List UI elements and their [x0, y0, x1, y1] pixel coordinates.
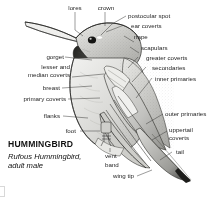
bill — [25, 22, 79, 42]
figure-age-sex: adult male — [8, 161, 104, 170]
figure-title: HUMMINGBIRD — [8, 139, 104, 149]
page-corner-mark — [0, 186, 5, 197]
label-breast: breast — [8, 84, 60, 91]
figure-species: Rufous Hummingbird, — [8, 152, 104, 161]
label-lesser-median-coverts-line1: lesser and — [4, 63, 70, 70]
label-postocular-spot: postocular spot — [128, 12, 170, 19]
label-outer-primaries: outer primaries — [165, 110, 206, 117]
label-tail: tail — [176, 148, 184, 155]
label-vent-band-line1: vent — [105, 152, 117, 159]
label-lesser-median-coverts-line2: median coverts — [4, 71, 70, 78]
label-inner-primaries: inner primaries — [155, 75, 196, 82]
label-ear-coverts: ear coverts — [131, 22, 162, 29]
label-secondaries: secondaries — [152, 64, 185, 71]
label-scapulars: scapulars — [141, 44, 168, 51]
label-primary-coverts: primary coverts — [2, 95, 66, 102]
label-greater-coverts: greater coverts — [146, 54, 187, 61]
label-wing-tip: wing tip — [113, 172, 134, 179]
label-flanks: flanks — [8, 112, 60, 119]
label-crown: crown — [90, 4, 122, 11]
hummingbird-anatomy-figure: lores crown postocular spot ear coverts … — [0, 0, 218, 206]
label-lores: lores — [60, 4, 90, 11]
label-foot: foot — [46, 127, 76, 134]
label-vent-band-line2: band — [105, 161, 119, 168]
label-gorget: gorget — [10, 53, 64, 60]
label-uppertail-coverts-line2: coverts — [169, 134, 189, 141]
label-nape: nape — [134, 33, 148, 40]
caption-block: HUMMINGBIRD Rufous Hummingbird, adult ma… — [8, 139, 104, 170]
label-uppertail-coverts-line1: uppertail — [169, 126, 193, 133]
hummingbird-illustration — [0, 0, 218, 206]
